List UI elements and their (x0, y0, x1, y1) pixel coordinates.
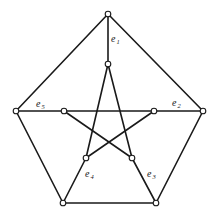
edge-o4-o5 (16, 111, 63, 203)
edge-o1-o2 (108, 14, 203, 111)
vertex-i5 (61, 108, 67, 114)
vertex-i1 (105, 61, 111, 67)
edge-label-e4: e4 (85, 168, 94, 180)
graph-svg: e1e2e3e4e5 (0, 0, 215, 218)
edge-label-e5: e5 (36, 98, 45, 110)
edge-o5-o1 (16, 14, 108, 111)
edge-label-e3: e3 (147, 168, 156, 180)
vertex-i2 (151, 108, 157, 114)
edge-o3-i3 (132, 158, 156, 203)
edge-label-e2: e2 (172, 97, 181, 109)
vertex-i4 (83, 155, 89, 161)
vertex-i3 (129, 155, 135, 161)
edge-o2-o3 (156, 111, 203, 203)
edge-label-e1: e1 (111, 33, 120, 45)
vertex-o4 (60, 200, 66, 206)
edge-o4-i4 (63, 158, 86, 203)
petersen-graph-diagram: e1e2e3e4e5 (0, 0, 215, 218)
vertex-o2 (200, 108, 206, 114)
edge-i2-i4 (86, 111, 154, 158)
vertex-o5 (13, 108, 19, 114)
vertex-o3 (153, 200, 159, 206)
vertex-o1 (105, 11, 111, 17)
